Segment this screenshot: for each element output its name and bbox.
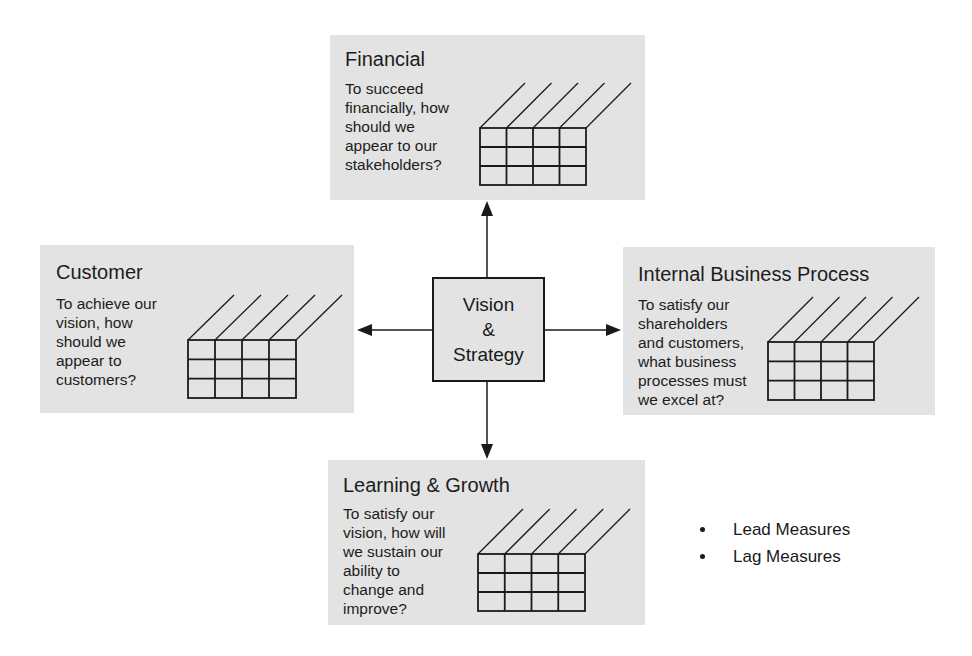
arrow-left-icon: [357, 324, 432, 336]
learning-growth-question: To satisfy our vision, how will we susta…: [343, 504, 446, 618]
ampersand-line: &: [482, 317, 495, 342]
internal-business-process-panel: Internal Business Process To satisfy our…: [623, 247, 935, 415]
vision-strategy-box: Vision & Strategy: [432, 277, 545, 382]
internal-business-process-question: To satisfy our shareholders and customer…: [638, 295, 747, 409]
customer-title: Customer: [56, 260, 143, 284]
legend-item-lag: Lag Measures: [700, 543, 850, 570]
strategy-line: Strategy: [453, 342, 524, 367]
customer-panel: Customer To achieve our vision, how shou…: [40, 245, 354, 413]
learning-growth-title: Learning & Growth: [343, 473, 510, 497]
bullet-icon: [700, 527, 705, 532]
arrow-down-icon: [481, 382, 493, 459]
bullet-icon: [700, 554, 705, 559]
measures-legend: Lead Measures Lag Measures: [700, 516, 850, 570]
financial-question: To succeed financially, how should we ap…: [345, 79, 449, 174]
arrow-up-icon: [481, 201, 493, 277]
financial-panel: Financial To succeed financially, how sh…: [330, 35, 645, 200]
vision-line: Vision: [463, 292, 514, 317]
financial-title: Financial: [345, 47, 425, 71]
arrow-right-icon: [545, 324, 621, 336]
internal-business-process-title: Internal Business Process: [638, 262, 869, 286]
learning-growth-panel: Learning & Growth To satisfy our vision,…: [328, 460, 645, 625]
legend-item-lead: Lead Measures: [700, 516, 850, 543]
customer-question: To achieve our vision, how should we app…: [56, 294, 157, 389]
